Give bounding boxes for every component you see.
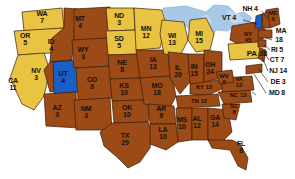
state-SD: [106, 30, 138, 55]
state-PA: [228, 42, 262, 60]
state-AR: [148, 104, 176, 124]
state-NM: [74, 98, 112, 130]
electoral-map-container: WA7OR5CA11ID4NV3UT4AZ3MT4WY3CO8NM3ND3SD5…: [0, 0, 295, 179]
us-electoral-map-svg: [0, 0, 295, 179]
state-CO: [76, 66, 114, 100]
state-WY: [72, 38, 110, 68]
state-TN: [176, 94, 220, 108]
state-KS: [110, 78, 144, 101]
state-MA: [258, 30, 272, 38]
state-ND: [106, 8, 135, 31]
state-WA: [22, 8, 64, 31]
state-MO: [140, 76, 176, 108]
state-AL: [192, 108, 208, 140]
state-IN: [188, 54, 204, 84]
state-VT: [255, 14, 262, 28]
state-MS: [176, 108, 192, 142]
state-MD-DE: [246, 64, 262, 74]
state-AZ: [44, 92, 78, 128]
